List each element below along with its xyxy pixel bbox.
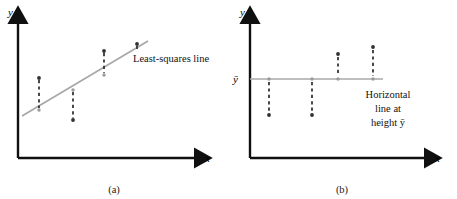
least-squares-line [22,41,148,116]
y-axis-label: y [239,6,245,18]
mean-line-annotation-line-2: line at [375,103,401,114]
data-point [71,118,75,122]
data-point [37,76,41,80]
mean-point [336,77,339,80]
fitted-point [71,88,74,91]
panel-b-caption: (b) [228,184,456,195]
mean-point [267,77,270,80]
y-axis-label: y [7,6,13,18]
panel-a: y x Least-squares line (a) [0,0,228,199]
data-point [371,45,375,49]
mean-line-annotation-line-3: height ȳ [371,117,406,128]
data-point [102,49,106,53]
x-axis-label: x [434,152,440,164]
panel-b: y x ȳ Horizontal line at [228,0,456,199]
data-point [135,42,139,46]
two-panel-regression-figure: y x Least-squares line (a) [0,0,457,199]
fitted-point [37,108,40,111]
mean-point [371,77,374,80]
data-point [267,113,271,117]
least-squares-line-annotation: Least-squares line [133,53,209,64]
mean-tick-label: ȳ [232,73,239,85]
mean-line-annotation-line-1: Horizontal [366,89,411,100]
mean-point [310,77,313,80]
panel-b-plot: y x ȳ Horizontal line at [228,0,456,185]
x-axis-label: x [204,152,210,164]
panel-a-plot: y x Least-squares line [0,0,228,185]
data-point [310,113,314,117]
data-point [336,52,340,56]
panel-a-caption: (a) [0,184,228,195]
fitted-point [102,73,105,76]
